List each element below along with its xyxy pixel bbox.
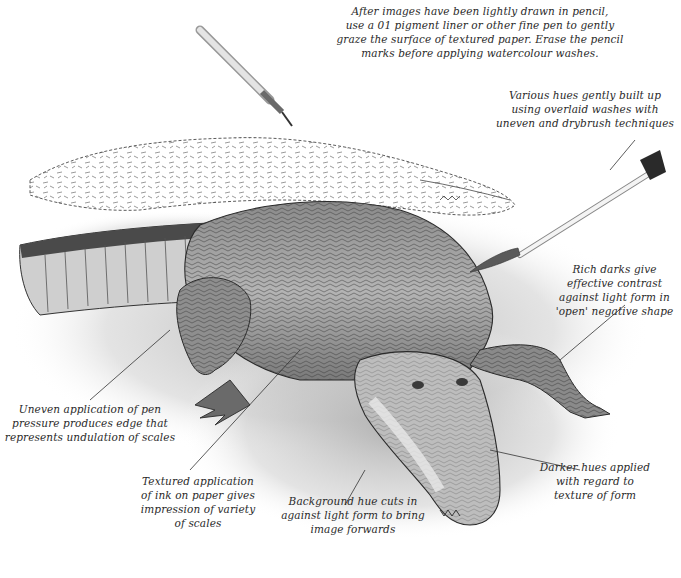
pigment-liner-pen-icon (200, 30, 292, 126)
background-hue-annotation: Background hue cuts in against light for… (278, 494, 428, 536)
rich-darks-annotation: Rich darks give effective contrast again… (548, 262, 681, 318)
pen-technique-annotation: After images have been lightly drawn in … (290, 4, 670, 60)
brush-washes-annotation: Various hues gently built up using overl… (490, 88, 680, 130)
textured-ink-annotation: Textured application of ink on paper giv… (128, 474, 268, 530)
pen-pressure-annotation: Uneven application of pen pressure produ… (0, 402, 180, 444)
darker-hues-annotation: Darker hues applied with regard to textu… (525, 460, 665, 502)
